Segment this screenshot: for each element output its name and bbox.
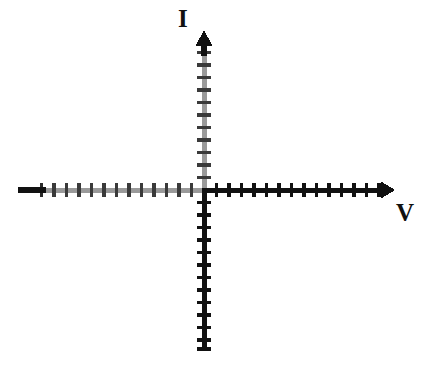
iv-axes-figure: I V bbox=[0, 0, 425, 368]
y-axis-arrow-shaft bbox=[201, 40, 207, 56]
axes-svg bbox=[0, 0, 425, 368]
x-axis-label: V bbox=[396, 200, 414, 225]
background-layer bbox=[0, 0, 425, 368]
y-axis-label: I bbox=[178, 6, 188, 31]
